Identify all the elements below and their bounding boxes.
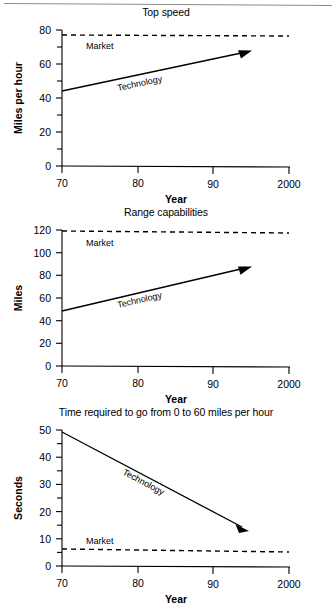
chart-plot-area: 80 60 40 20 0 Miles per hour 70 80 90 20… [0,6,332,206]
series-market-line [62,549,289,552]
y-axis-title: Miles per hour [12,62,24,134]
series-market-line [62,231,289,233]
y-tick-label-20: 20 [39,337,51,349]
y-tick-label-0: 0 [45,360,51,372]
y-tick-label-20: 20 [39,126,51,138]
y-axis-title: Miles [12,285,24,311]
y-tick-label-40: 40 [39,92,51,104]
y-tick-label-40: 40 [39,451,51,463]
chart-panel-acceleration-time: Time required to go from 0 to 60 miles p… [0,406,332,605]
x-tick-label-70: 70 [56,577,68,589]
x-axis-title: Year [165,193,187,205]
x-tick-label-2000: 2000 [277,378,301,390]
y-tick-label-40: 40 [39,315,51,327]
chart-panel-top-speed: Top speed 80 60 40 20 0 Miles per hour [0,6,332,206]
figure-page: Top speed 80 60 40 20 0 Miles per hour [0,0,332,605]
y-tick-label-10: 10 [39,533,51,545]
y-tick-label-0: 0 [45,160,51,172]
x-axis-line [62,166,290,167]
y-tick-label-80: 80 [39,269,51,281]
y-tick-label-100: 100 [33,247,51,259]
series-market-label: Market [86,536,114,546]
x-tick-label-70: 70 [56,377,68,389]
chart-plot-area: 120 100 80 60 40 20 0 Miles 70 80 90 200… [0,206,332,406]
x-tick-label-80: 80 [132,377,144,389]
x-tick-label-90: 90 [207,578,219,590]
series-market-line [62,35,289,36]
x-tick-label-2000: 2000 [277,578,301,590]
series-market-label: Market [86,238,114,248]
series-technology-label: Technology [116,74,163,93]
series-technology-label: Technology [121,467,166,497]
x-tick-label-80: 80 [132,577,144,589]
y-tick-label-120: 120 [33,224,51,236]
series-technology-arrowhead [238,266,252,274]
x-tick-label-90: 90 [207,378,219,390]
x-axis-line [62,366,290,367]
y-tick-label-0: 0 [45,560,51,572]
y-tick-label-20: 20 [39,506,51,518]
y-tick-label-80: 80 [39,24,51,36]
y-axis-title: Seconds [12,476,24,520]
chart-panel-range-capabilities: Range capabilities 120 100 80 60 40 20 0… [0,206,332,406]
series-technology-line [62,268,245,311]
x-axis-title: Year [165,593,187,605]
series-technology-arrowhead [238,50,252,58]
series-technology-arrowhead [236,524,250,533]
x-tick-label-80: 80 [132,177,144,189]
chart-plot-area: 50 40 30 20 10 0 Seconds 70 80 90 2000 Y… [0,406,332,605]
x-tick-label-90: 90 [207,178,219,190]
y-tick-label-50: 50 [39,424,51,436]
x-axis-line [62,566,290,567]
x-axis-title: Year [165,393,187,405]
y-tick-label-30: 30 [39,478,51,490]
x-tick-label-2000: 2000 [277,178,301,190]
y-tick-label-60: 60 [39,58,51,70]
series-market-label: Market [86,41,114,51]
series-technology-line [62,432,242,527]
y-tick-label-60: 60 [39,292,51,304]
x-tick-label-70: 70 [56,177,68,189]
